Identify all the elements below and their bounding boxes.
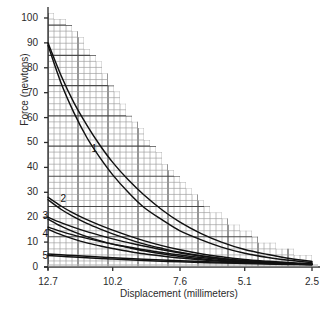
force-displacement-chart: Force (newtons) Displacement (millimeter…	[0, 0, 329, 310]
curve-label-2: 2	[61, 194, 67, 204]
y-tick-label: 10	[8, 237, 38, 246]
x-tick-label: 2.5	[289, 276, 329, 287]
plot-area	[0, 0, 329, 310]
curve-label-5: 5	[42, 251, 48, 261]
y-tick-label: 60	[8, 113, 38, 122]
y-tick-label: 40	[8, 162, 38, 171]
y-tick-label: 70	[8, 88, 38, 97]
y-tick-label: 80	[8, 63, 38, 72]
x-tick-label: 5.1	[222, 276, 268, 287]
y-tick-labels: 0102030405060708090100	[4, 0, 38, 310]
x-tick-labels: 12.710.27.65.12.5	[0, 270, 329, 286]
y-tick-label: 50	[8, 137, 38, 146]
curve-label-3: 3	[42, 211, 48, 221]
x-tick-label: 7.6	[157, 276, 203, 287]
y-tick-label: 90	[8, 38, 38, 47]
curve-label-1: 1	[92, 144, 98, 154]
y-tick-label: 20	[8, 212, 38, 221]
y-tick-label: 30	[8, 187, 38, 196]
y-tick-label: 100	[8, 13, 38, 22]
curve-label-4: 4	[42, 229, 48, 239]
x-tick-label: 10.2	[90, 276, 136, 287]
x-tick-label: 12.7	[25, 276, 71, 287]
x-axis-title: Displacement (millimeters)	[48, 288, 310, 299]
